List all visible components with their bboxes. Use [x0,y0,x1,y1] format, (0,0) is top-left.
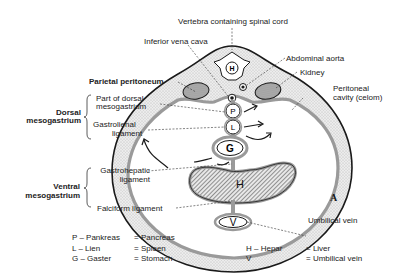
label-part-dorsal-2: mesogastrium [96,102,146,111]
figure-letter: A [330,192,337,203]
legend-value: = Pancreas [134,233,175,244]
legend-key: L – Lien [72,244,134,255]
legend-item: V = Umbilical vein [246,254,362,265]
legend-value: = Umbilical vein [306,254,362,265]
legend-key: V [246,254,306,265]
legend-left: P – Pankreas = Pancreas L – Lien = Splee… [72,233,175,265]
legend-value: = Spleen [134,244,166,255]
svg-text:L: L [231,123,236,132]
label-parietal-peritoneum: Parietal peritoneum [89,77,164,86]
legend-key: H – Hepar [246,244,306,255]
legend-key: G – Gaster [72,254,134,265]
label-kidney: Kidney [300,68,324,77]
label-vertebra: Vertebra containing spinal cord [178,17,288,26]
svg-text:G: G [226,143,234,154]
legend-value: = Liver [306,244,330,255]
svg-text:H: H [229,65,234,72]
svg-text:P: P [230,107,235,116]
svg-text:H: H [236,178,244,190]
label-gastrolienal-2: ligament [112,129,142,138]
legend-item: H – Hepar = Liver [246,244,362,255]
svg-text:V: V [230,217,237,228]
legend-item: P – Pankreas = Pancreas [72,233,175,244]
label-abdominal-aorta: Abdominal aorta [286,54,344,63]
label-inferior-vena-cava: Inferior vena cava [144,37,208,46]
label-gastrolienal-1: Gastrolienal [93,120,136,129]
label-peritoneal-cavity-1: Peritoneal [333,84,369,93]
legend-right: H – Hepar = Liver V = Umbilical vein [246,244,362,265]
label-peritoneal-cavity-2: cavity (celom) [333,93,382,102]
label-ventral-meso-1: Ventral [20,182,80,191]
label-gastrohepatic-1: Gastrohepatic [80,166,150,175]
legend-key: P – Pankreas [72,233,134,244]
legend-item: G – Gaster = Stomach [72,254,175,265]
label-falciform: Falciform ligament [97,204,162,213]
legend-value: = Stomach [134,254,172,265]
label-ventral-meso-2: mesogastrium [15,191,80,200]
label-umbilical-vein: Umbilical vein [308,216,357,225]
label-dorsal-meso-2: mesogastrium [15,116,81,125]
label-gastrohepatic-2: ligament [80,175,150,184]
legend-item: L – Lien = Spleen [72,244,175,255]
